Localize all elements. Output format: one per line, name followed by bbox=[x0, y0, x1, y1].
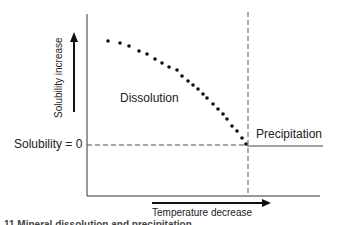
figure-caption: 11 Mineral dissolution and precipitation bbox=[4, 219, 192, 225]
y-axis-label: Solubility increase bbox=[53, 37, 64, 118]
data-point bbox=[145, 52, 149, 56]
data-point bbox=[225, 117, 229, 121]
data-point bbox=[137, 49, 141, 53]
data-point bbox=[201, 92, 205, 96]
data-point bbox=[221, 112, 225, 116]
data-point bbox=[160, 61, 164, 65]
data-point bbox=[205, 96, 209, 100]
data-point bbox=[196, 87, 200, 91]
data-point bbox=[191, 83, 195, 87]
data-point bbox=[180, 74, 184, 78]
data-point bbox=[118, 41, 122, 45]
data-point bbox=[235, 129, 239, 133]
data-point bbox=[216, 107, 220, 111]
x-axis-label: Temperature decrease bbox=[152, 207, 252, 218]
data-point bbox=[153, 57, 157, 61]
data-point bbox=[186, 79, 190, 83]
diagram-canvas bbox=[0, 0, 341, 225]
data-point bbox=[244, 142, 248, 146]
y-arrow-icon bbox=[70, 32, 78, 112]
data-point bbox=[230, 124, 234, 128]
data-point bbox=[167, 65, 171, 69]
x-arrow-icon bbox=[152, 199, 271, 207]
data-point bbox=[106, 39, 110, 43]
dissolution-label: Dissolution bbox=[120, 91, 179, 105]
data-point bbox=[175, 68, 179, 72]
zero-line-label: Solubility = 0 bbox=[14, 137, 82, 151]
data-point bbox=[240, 136, 244, 140]
data-point bbox=[211, 102, 215, 106]
precipitation-label: Precipitation bbox=[256, 127, 322, 141]
data-point bbox=[127, 44, 131, 48]
